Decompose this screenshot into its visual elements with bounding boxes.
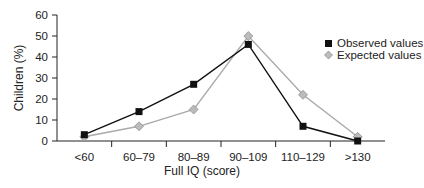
x-tick-label: 80–89	[178, 151, 210, 163]
observed-point	[136, 108, 143, 115]
y-tick-label: 60	[35, 9, 48, 21]
x-axis-label: Full IQ (score)	[164, 164, 240, 178]
x-tick-label: 90–109	[229, 151, 267, 163]
y-tick-label: 30	[35, 72, 48, 84]
x-tick-label: 60–79	[123, 151, 155, 163]
legend-observed-marker	[325, 40, 332, 47]
observed-point	[354, 138, 361, 145]
y-tick-label: 50	[35, 30, 48, 42]
y-tick-label: 20	[35, 93, 48, 105]
y-axis-label: Children (%)	[12, 45, 26, 112]
legend-observed-label: Observed values	[337, 37, 424, 49]
observed-point	[81, 131, 88, 138]
y-tick-label: 10	[35, 114, 48, 126]
observed-point	[190, 81, 197, 88]
legend: Observed values Expected values	[325, 37, 424, 61]
x-tick-label: <60	[75, 151, 95, 163]
x-tick-label: >130	[345, 151, 371, 163]
y-tick-label: 0	[42, 135, 48, 147]
observed-point	[300, 123, 307, 130]
expected-point	[135, 122, 144, 131]
legend-expected-label: Expected values	[337, 49, 422, 61]
observed-point	[245, 41, 252, 48]
chart: 0102030405060 <6060–7980–8990–109110–129…	[0, 0, 424, 188]
y-tick-label: 40	[35, 51, 48, 63]
x-axis: <6060–7980–8990–109110–129>130	[57, 141, 385, 163]
series-layer	[80, 32, 362, 145]
x-tick-label: 110–129	[281, 151, 325, 163]
legend-expected-marker	[325, 51, 333, 59]
y-axis: 0102030405060	[35, 9, 57, 147]
